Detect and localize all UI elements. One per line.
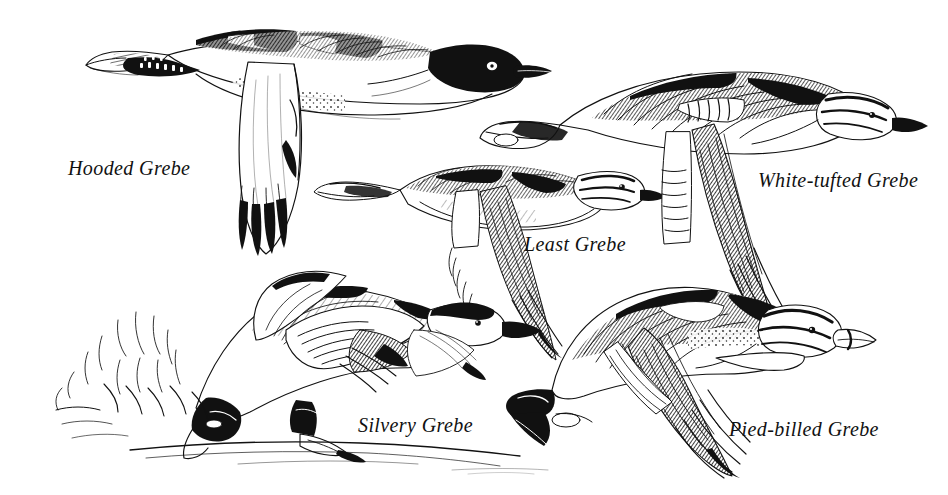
species-label-least-grebe: Least Grebe: [524, 234, 626, 254]
species-label-white-tufted-grebe: White-tufted Grebe: [758, 170, 918, 190]
species-label-pied-billed-grebe: Pied-billed Grebe: [729, 419, 879, 439]
illustration-plate: Hooded Grebe Least Grebe White-tufted Gr…: [0, 0, 948, 495]
species-label-silvery-grebe: Silvery Grebe: [358, 415, 473, 435]
species-label-hooded-grebe: Hooded Grebe: [68, 158, 190, 178]
